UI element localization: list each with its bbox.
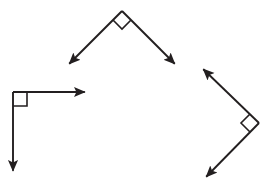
right-angle-marker-left-angle (13, 92, 27, 106)
ray-ray-down-left (69, 11, 122, 64)
figure-left-angle (13, 92, 85, 171)
figure-right-angle (203, 69, 259, 176)
figure-top-angle (69, 11, 174, 64)
ray-ray-down-right (122, 11, 175, 64)
right-angle-marker-top-angle (113, 20, 131, 29)
geometry-diagram (0, 0, 269, 186)
geometry-canvas (0, 0, 269, 186)
ray-ray-down-left (206, 123, 259, 177)
right-angle-marker-right-angle-figure (241, 114, 250, 132)
ray-ray-up-left (203, 69, 259, 123)
